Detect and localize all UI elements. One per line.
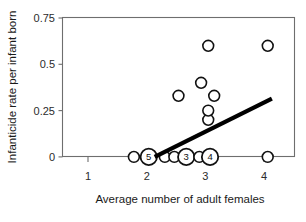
y-tick-label-05: 0.5 xyxy=(40,58,55,70)
x-axis-title: Average number of adult females xyxy=(95,193,264,205)
data-point xyxy=(209,90,220,101)
data-point-count-label: 5 xyxy=(146,151,151,162)
data-point xyxy=(203,40,214,51)
y-tick-label-075: 0.75 xyxy=(34,12,55,24)
y-tick-label-0: 0 xyxy=(49,151,55,163)
data-point-count-label: 3 xyxy=(184,151,189,162)
data-point xyxy=(128,152,139,163)
x-tick-label-2: 2 xyxy=(144,170,150,182)
data-point xyxy=(203,105,214,116)
x-tick-label-4: 4 xyxy=(261,170,267,182)
y-tick-label-025: 0.25 xyxy=(34,105,55,117)
data-point xyxy=(173,90,184,101)
x-tick-label-1: 1 xyxy=(85,170,91,182)
x-tick-label-3: 3 xyxy=(202,170,208,182)
data-point xyxy=(262,40,273,51)
scatter-plot-figure: 0.75 0.5 0.25 0 1 2 3 4 Average number o… xyxy=(0,0,306,222)
data-point-count-label: 4 xyxy=(207,151,212,162)
data-point xyxy=(196,77,207,88)
data-point xyxy=(262,152,273,163)
chart-canvas: 0.75 0.5 0.25 0 1 2 3 4 Average number o… xyxy=(0,0,306,222)
y-axis-title: Infanticide rate per infant born xyxy=(6,11,18,164)
